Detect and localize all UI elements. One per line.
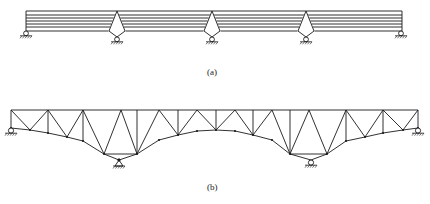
roller-support-icon (5, 128, 17, 136)
roller-circle (115, 37, 120, 42)
truss-diagonal (197, 110, 216, 130)
truss-diagonal (290, 110, 309, 154)
truss-diagonal (216, 110, 235, 130)
truss-node (82, 140, 84, 142)
truss-node (382, 132, 384, 134)
ground-hatch-icon (300, 42, 312, 45)
caption-b: (b) (207, 182, 218, 192)
truss-diagonal (309, 110, 327, 154)
truss-diagonal (383, 110, 403, 130)
truss-diagonal (346, 110, 365, 137)
pier-leg (290, 154, 311, 160)
truss-diagonal (104, 110, 121, 154)
truss-node (271, 139, 273, 141)
ground-hatch-icon (412, 133, 424, 136)
truss-diagonal (253, 110, 272, 135)
roller-circle (399, 31, 404, 36)
roller-support-icon (300, 37, 312, 44)
truss-diagonal (30, 110, 48, 130)
diagram-b-truss-bridge (5, 110, 424, 169)
truss-node (47, 132, 49, 134)
truss-node (177, 134, 179, 136)
truss-diagonal (48, 110, 67, 137)
pier-leg (119, 154, 137, 160)
pier-leg (311, 154, 327, 160)
truss-diagonal (67, 110, 83, 137)
roller-circle (24, 31, 29, 36)
ground-hatch-icon (206, 42, 218, 45)
bottom-chord (11, 128, 418, 154)
pin-joint (118, 159, 120, 161)
truss-node (364, 136, 366, 138)
roller-circle (210, 37, 215, 42)
truss-node (196, 130, 198, 132)
pier-leg (104, 154, 119, 160)
ground-hatch-icon (113, 166, 125, 169)
roller-support-icon (206, 37, 218, 44)
ground-hatch-icon (111, 42, 123, 45)
truss-node (252, 134, 254, 136)
ground-hatch-icon (395, 36, 407, 39)
bridge-diagrams (0, 0, 430, 204)
roller-circle (415, 128, 420, 133)
roller-support-icon (20, 31, 32, 38)
ground-hatch-icon (305, 165, 317, 168)
pier-3 (298, 11, 314, 44)
truss-diagonal (11, 110, 30, 130)
truss-node (289, 153, 291, 155)
truss-node (66, 136, 68, 138)
roller-support-icon (412, 128, 424, 136)
truss-diagonal (121, 110, 137, 154)
truss-diagonal (403, 110, 418, 130)
roller-support-icon (111, 37, 123, 44)
truss-node (234, 130, 236, 132)
caption-a: (a) (207, 67, 217, 77)
truss-node (326, 153, 328, 155)
truss-diagonal (159, 110, 178, 135)
truss-node (215, 129, 217, 131)
roller-circle (8, 128, 13, 133)
roller-support-icon (305, 160, 317, 168)
truss-diagonal (365, 110, 383, 137)
truss-node (29, 129, 31, 131)
diagram-a-continuous-beam (20, 11, 407, 44)
roller-circle (308, 160, 313, 165)
truss-node (345, 140, 347, 142)
truss-node (103, 153, 105, 155)
truss-node (158, 139, 160, 141)
roller-circle (304, 37, 309, 42)
roller-support-icon (395, 31, 407, 38)
truss-node (402, 129, 404, 131)
pin-support-icon (113, 159, 125, 169)
pier-1 (109, 11, 125, 44)
pier-2 (204, 11, 220, 44)
ground-hatch-icon (5, 133, 17, 136)
ground-hatch-icon (20, 36, 32, 39)
truss-node (136, 153, 138, 155)
